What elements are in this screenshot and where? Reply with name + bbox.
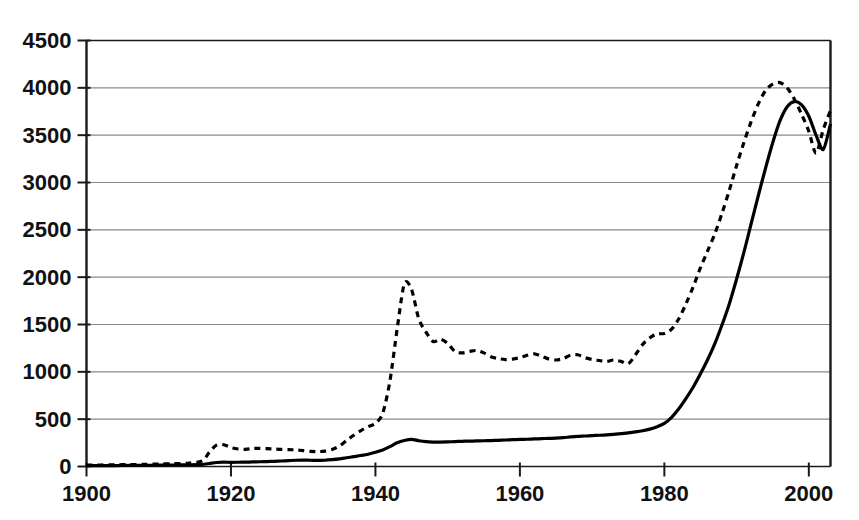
- x-tick-label-1980: 1980: [640, 481, 689, 506]
- chart-canvas: 050010001500200025003000350040004500 190…: [0, 0, 859, 520]
- y-tick-label-1500: 1500: [23, 312, 72, 337]
- x-tick-label-2000: 2000: [784, 481, 833, 506]
- y-tick-label-4500: 4500: [23, 28, 72, 53]
- y-tick-label-2000: 2000: [23, 265, 72, 290]
- y-tick-label-500: 500: [35, 407, 72, 432]
- x-tick-label-1940: 1940: [351, 481, 400, 506]
- line-chart: 050010001500200025003000350040004500 190…: [0, 0, 859, 520]
- y-tick-label-3500: 3500: [23, 123, 72, 148]
- y-tick-label-2500: 2500: [23, 217, 72, 242]
- x-tick-label-1900: 1900: [62, 481, 111, 506]
- x-tick-label-1960: 1960: [495, 481, 544, 506]
- y-tick-label-3000: 3000: [23, 170, 72, 195]
- x-tick-label-1920: 1920: [206, 481, 255, 506]
- y-tick-label-0: 0: [59, 454, 71, 479]
- y-tick-label-4000: 4000: [23, 75, 72, 100]
- y-tick-label-1000: 1000: [23, 359, 72, 384]
